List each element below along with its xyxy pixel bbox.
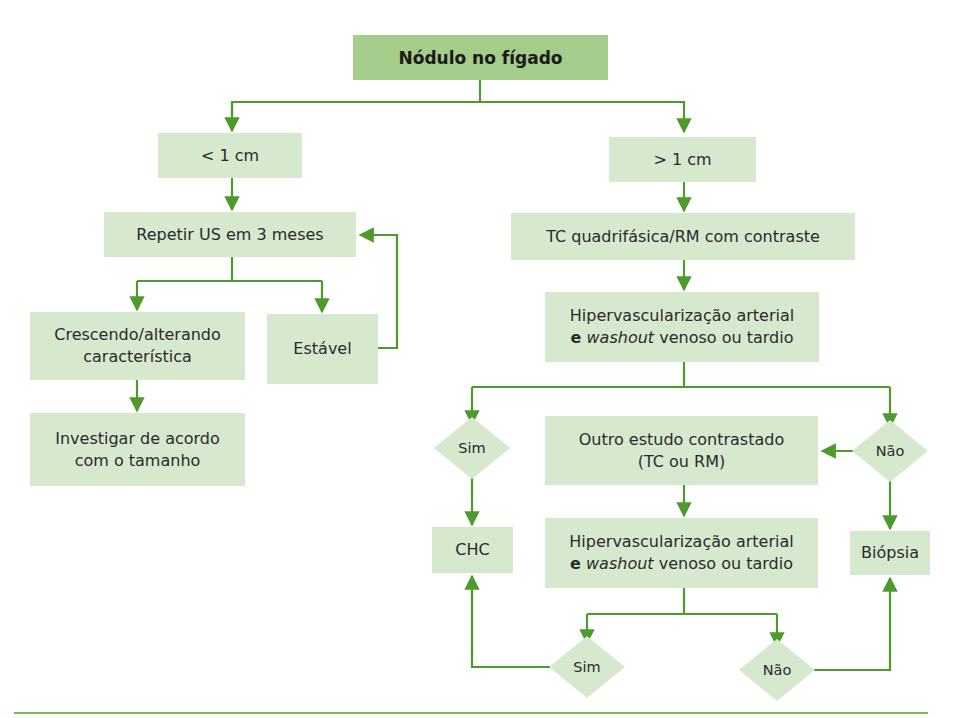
- node-label-line1: Crescendo/alterando: [54, 324, 221, 346]
- decision-label: Não: [876, 443, 905, 459]
- node-chc: CHC: [432, 527, 513, 573]
- node-label-line1: Outro estudo contrastado: [579, 429, 784, 451]
- node-criteria-2: Hipervascularização arterial e washout v…: [545, 518, 818, 588]
- root-label: Nódulo no fígado: [398, 47, 562, 69]
- node-growing: Crescendo/alterando característica: [30, 312, 245, 380]
- rest-text: venoso ou tardio: [659, 554, 793, 573]
- decision-yes-1: Sim: [442, 434, 502, 462]
- node-repeat-us: Repetir US em 3 meses: [104, 212, 356, 257]
- decision-yes-2: Sim: [557, 653, 617, 681]
- decision-label: Sim: [573, 659, 600, 675]
- decision-label: Sim: [458, 440, 485, 456]
- decision-no-2: Não: [747, 656, 807, 684]
- node-label-line2: (TC ou RM): [638, 451, 726, 473]
- node-label: Biópsia: [861, 542, 919, 564]
- node-criteria-1: Hipervascularização arterial e washout v…: [545, 292, 819, 362]
- node-other-study: Outro estudo contrastado (TC ou RM): [545, 416, 818, 485]
- node-less-1cm: < 1 cm: [158, 133, 302, 178]
- node-stable: Estável: [267, 314, 378, 384]
- node-label: Estável: [293, 338, 351, 360]
- node-label: Repetir US em 3 meses: [136, 224, 323, 246]
- node-label: CHC: [455, 539, 489, 561]
- node-label: TC quadrifásica/RM com contraste: [546, 226, 820, 248]
- node-label-line2: característica: [83, 346, 192, 368]
- node-label-line2: e washout venoso ou tardio: [571, 327, 794, 349]
- root-node: Nódulo no fígado: [353, 35, 608, 80]
- italic-washout: washout: [587, 328, 655, 347]
- node-label-line2: e washout venoso ou tardio: [570, 553, 793, 575]
- node-investigate: Investigar de acordo com o tamanho: [30, 413, 245, 486]
- node-label-line1: Hipervascularização arterial: [570, 305, 794, 327]
- italic-washout: washout: [586, 554, 654, 573]
- node-label: < 1 cm: [201, 145, 259, 167]
- node-biopsy: Biópsia: [850, 531, 930, 575]
- node-greater-1cm: > 1 cm: [609, 137, 756, 182]
- decision-no-1: Não: [860, 437, 920, 465]
- bold-e: e: [571, 328, 582, 347]
- decision-label: Não: [763, 662, 792, 678]
- node-label-line1: Hipervascularização arterial: [569, 531, 793, 553]
- bold-e: e: [570, 554, 581, 573]
- node-label: > 1 cm: [653, 149, 711, 171]
- node-ct-mri: TC quadrifásica/RM com contraste: [511, 213, 855, 260]
- node-label-line2: com o tamanho: [75, 450, 201, 472]
- rest-text: venoso ou tardio: [659, 328, 793, 347]
- node-label-line1: Investigar de acordo: [55, 428, 220, 450]
